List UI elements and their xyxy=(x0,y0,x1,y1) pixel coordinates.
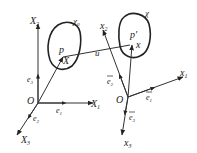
label-x1: x1 xyxy=(179,67,187,79)
label-e2: e2 xyxy=(33,114,40,124)
label-ebar3: e3 xyxy=(129,112,136,123)
label-x: x xyxy=(135,39,141,50)
current-frame: x2 x1 x3 O e2 e1 e3 xyxy=(99,20,187,149)
label-ebar2: e2 xyxy=(107,76,114,87)
label-origin-left: O xyxy=(27,95,34,106)
label-x3: x3 xyxy=(123,137,131,149)
label-u: u xyxy=(95,48,100,58)
label-e3: e3 xyxy=(27,75,34,85)
label-chi: χ xyxy=(144,8,150,18)
label-X3: X3 xyxy=(20,134,30,146)
label-chi0: χ0 xyxy=(72,16,80,27)
current-body: χ p′ x xyxy=(119,8,150,58)
position-vector-x xyxy=(128,45,132,97)
label-x2: x2 xyxy=(99,20,107,32)
label-origin-right: O xyxy=(116,94,123,105)
label-X2: X2 xyxy=(29,15,39,27)
reference-frame: X2 X1 X3 O e3 e1 e2 xyxy=(17,15,100,146)
configuration-diagram: X2 X1 X3 O e3 e1 e2 χ0 p X u χ p′ x x2 xyxy=(0,0,197,153)
ebar3-vector xyxy=(125,97,128,113)
position-vector-X xyxy=(38,57,63,103)
label-e1: e1 xyxy=(56,106,62,116)
reference-body: χ0 p X xyxy=(48,16,81,69)
svg-text:e1: e1 xyxy=(146,93,152,103)
svg-text:e3: e3 xyxy=(129,113,136,123)
svg-text:e2: e2 xyxy=(107,77,114,87)
label-p: p xyxy=(58,44,64,55)
label-X1: X1 xyxy=(90,98,100,110)
label-ebar1: e1 xyxy=(146,92,152,103)
